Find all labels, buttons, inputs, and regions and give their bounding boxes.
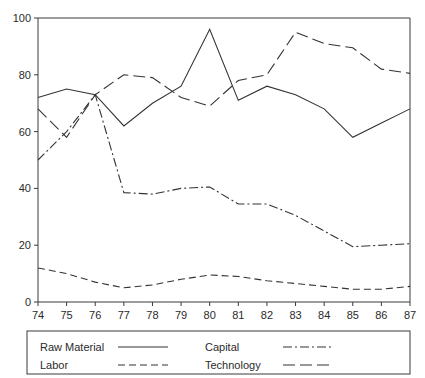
legend-label-labor: Labor <box>40 359 68 371</box>
series-line-capital <box>38 95 410 247</box>
chart-canvas: 020406080100 747576777879808182838485868… <box>0 0 425 378</box>
x-tick-label: 74 <box>32 309 44 321</box>
y-tick-label: 40 <box>19 182 31 194</box>
series-line-technology <box>38 32 410 137</box>
legend: Raw MaterialCapitalLaborTechnology <box>27 331 410 374</box>
x-tick-label: 80 <box>204 309 216 321</box>
x-tick-label: 75 <box>60 309 72 321</box>
plot-frame <box>38 18 410 302</box>
data-series-group <box>38 29 410 289</box>
x-tick-label: 81 <box>232 309 244 321</box>
axis-frame <box>38 18 410 302</box>
legend-label-technology: Technology <box>205 359 261 371</box>
x-tick-label: 84 <box>318 309 330 321</box>
y-tick-label: 20 <box>19 239 31 251</box>
x-tick-label: 77 <box>118 309 130 321</box>
line-chart-figure: 020406080100 747576777879808182838485868… <box>0 0 425 378</box>
x-tick-label: 82 <box>261 309 273 321</box>
y-tick-label: 100 <box>13 12 31 24</box>
x-tick-label: 83 <box>289 309 301 321</box>
legend-label-capital: Capital <box>205 341 239 353</box>
y-tick-label: 60 <box>19 126 31 138</box>
series-line-labor <box>38 268 410 289</box>
x-tick-label: 85 <box>347 309 359 321</box>
x-tick-label: 79 <box>175 309 187 321</box>
legend-label-raw-material: Raw Material <box>40 341 104 353</box>
x-tick-label: 78 <box>146 309 158 321</box>
x-tick-label: 86 <box>375 309 387 321</box>
legend-entries: Raw MaterialCapitalLaborTechnology <box>40 341 333 371</box>
x-tick-label: 87 <box>404 309 416 321</box>
y-tick-label: 80 <box>19 69 31 81</box>
x-tick-label: 76 <box>89 309 101 321</box>
y-tick-label: 0 <box>25 296 31 308</box>
y-axis-ticks: 020406080100 <box>13 12 38 308</box>
series-line-raw-material <box>38 29 410 137</box>
x-axis-ticks: 7475767778798081828384858687 <box>32 302 416 321</box>
